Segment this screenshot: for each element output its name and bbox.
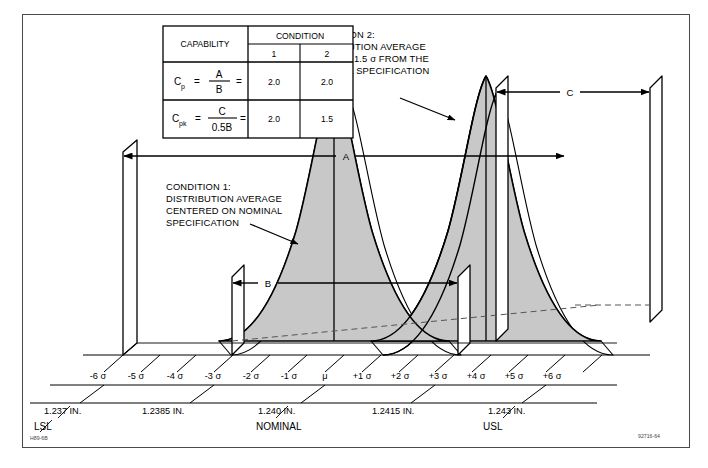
figure-code-left: H89-6B: [30, 435, 48, 441]
limit-label-lsl: LSL: [34, 421, 52, 432]
dimension-label-B: B: [265, 278, 271, 289]
annotation-condition-1-line-2: CENTERED ON NOMINAL: [166, 205, 282, 216]
sigma-tick-label: -3 σ: [205, 371, 222, 381]
inch-label: 1.243 IN.: [488, 406, 525, 416]
cp-equals-1: =: [194, 76, 200, 87]
sigma-tick-label: +1 σ: [353, 371, 372, 381]
table-header-condition: CONDITION: [276, 31, 324, 41]
cp-equals-2: =: [236, 76, 242, 87]
annotation-condition-1: CONDITION 1: DISTRIBUTION AVERAGE CENTER…: [166, 181, 282, 228]
cp-value-cond2: 2.0: [321, 77, 333, 87]
sigma-tick-label: -6 σ: [90, 371, 107, 381]
cp-denominator: B: [216, 84, 223, 95]
dimension-label-A: A: [343, 151, 350, 162]
figure-canvas: A B C CONDITION 1: DISTRIBUT: [0, 0, 708, 468]
sigma-tick-label: μ: [322, 371, 327, 381]
sigma-tick-marks: [104, 355, 602, 372]
plane-lsl: [123, 140, 137, 355]
annotation-condition-1-line-0: CONDITION 1:: [166, 181, 231, 192]
cp-numerator: A: [216, 69, 223, 80]
plane-minus-3-sigma: [232, 265, 244, 355]
annotation-condition-1-line-1: DISTRIBUTION AVERAGE: [166, 193, 282, 204]
table-header-cond-2: 2: [325, 49, 330, 59]
sigma-tick-label: -5 σ: [128, 371, 145, 381]
sigma-tick-label: +5 σ: [505, 371, 524, 381]
cpk-equals-2: =: [240, 113, 246, 124]
plane-plus-3-sigma: [458, 265, 470, 355]
leader-arrow-condition-1: [250, 224, 298, 244]
inch-axis-labels: 1.237 IN. 1.2385 IN. 1.240 IN. 1.2415 IN…: [44, 406, 525, 416]
plane-usl: [496, 76, 508, 341]
inch-label: 1.2385 IN.: [142, 406, 184, 416]
figure-code-right: 92716-64: [638, 433, 660, 439]
cpk-value-cond1: 2.0: [268, 114, 280, 124]
table-header-capability: CAPABILITY: [180, 39, 229, 49]
sigma-tick-label: +6 σ: [543, 371, 562, 381]
cpk-equals-1: =: [195, 113, 201, 124]
inch-label: 1.240 IN.: [258, 406, 295, 416]
spec-limit-labels: LSL NOMINAL USL: [34, 421, 503, 432]
limit-label-nominal: NOMINAL: [256, 421, 302, 432]
inch-tick-marks: [80, 385, 546, 403]
sigma-tick-label: -1 σ: [281, 371, 298, 381]
sigma-tick-label: -4 σ: [167, 371, 184, 381]
cpk-numerator: C: [218, 106, 225, 117]
sigma-tick-label: +4 σ: [467, 371, 486, 381]
capability-table: CAPABILITY CONDITION 1 2 C p = A B = 2.0…: [163, 26, 353, 138]
cpk-value-cond2: 1.5: [321, 114, 333, 124]
cp-subscript: p: [181, 83, 185, 91]
cp-value-cond1: 2.0: [268, 77, 280, 87]
dimension-label-C: C: [567, 87, 574, 98]
annotation-condition-1-line-3: SPECIFICATION: [166, 217, 239, 228]
sigma-axis-labels: -6 σ -5 σ -4 σ -3 σ -2 σ -1 σ μ +1 σ +2 …: [90, 371, 562, 381]
sigma-tick-label: +2 σ: [391, 371, 410, 381]
process-capability-figure: A B C CONDITION 1: DISTRIBUT: [0, 0, 708, 468]
cpk-denominator: 0.5B: [212, 122, 233, 133]
plane-right-boundary: [650, 76, 662, 322]
inch-label: 1.237 IN.: [44, 406, 81, 416]
cpk-subscript: pk: [179, 120, 187, 128]
sigma-tick-label: -2 σ: [243, 371, 260, 381]
leader-arrow-condition-2: [400, 98, 455, 120]
table-header-cond-1: 1: [272, 49, 277, 59]
sigma-tick-label: +3 σ: [429, 371, 448, 381]
dimension-line-C: C: [497, 87, 649, 98]
limit-label-usl: USL: [483, 421, 503, 432]
inch-label: 1.2415 IN.: [372, 406, 414, 416]
